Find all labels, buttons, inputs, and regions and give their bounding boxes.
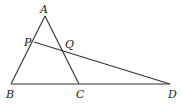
label-a: A [39, 3, 48, 16]
geometry-diagram: A P Q B C D [0, 0, 182, 104]
segment-pd [34, 42, 170, 84]
label-p: P [23, 36, 32, 49]
label-c: C [76, 88, 85, 101]
segment-ab [11, 16, 45, 84]
label-b: B [5, 88, 14, 101]
label-q: Q [65, 38, 74, 51]
label-d: D [167, 88, 177, 101]
